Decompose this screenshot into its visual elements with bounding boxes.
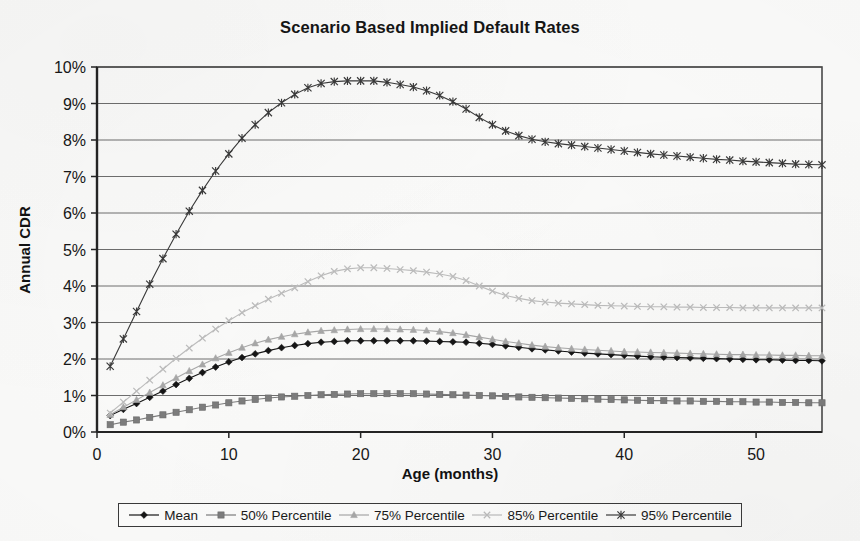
data-point-square xyxy=(133,417,139,423)
data-point-square xyxy=(766,399,772,405)
data-series xyxy=(107,77,826,428)
y-axis-tick-label: 9% xyxy=(63,96,86,113)
x-axis-title: Age (months) xyxy=(402,465,499,482)
y-axis-tick-label: 6% xyxy=(63,205,86,222)
x-axis-tick-label: 0 xyxy=(93,446,102,463)
data-point-square xyxy=(608,396,614,402)
data-point-diamond xyxy=(252,350,259,357)
data-point-square xyxy=(727,399,733,405)
data-point-star xyxy=(304,84,311,92)
legend-item-label: Mean xyxy=(164,508,198,523)
legend-item-95-percentile[interactable]: 95% Percentile xyxy=(605,508,732,523)
y-axis-tick-label: 3% xyxy=(63,315,86,332)
data-point-star xyxy=(120,335,127,343)
data-point-square xyxy=(147,414,153,420)
data-point-square xyxy=(384,391,390,397)
data-point-cross xyxy=(212,326,218,332)
data-point-square xyxy=(806,400,812,406)
data-point-star xyxy=(515,131,522,139)
y-axis-tick-label: 0% xyxy=(63,424,86,441)
data-point-square xyxy=(160,412,166,418)
data-point-square xyxy=(318,392,324,398)
data-point-diamond xyxy=(318,339,325,346)
series-95-percentile xyxy=(107,77,826,371)
legend-item-75-percentile[interactable]: 75% Percentile xyxy=(338,508,465,523)
data-point-square xyxy=(582,396,588,402)
data-point-triangle xyxy=(173,374,180,380)
data-point-diamond xyxy=(450,338,457,345)
data-point-diamond xyxy=(463,339,470,346)
data-point-square xyxy=(476,392,482,398)
data-point-diamond xyxy=(344,337,351,344)
x-axis-tick-label: 30 xyxy=(484,446,502,463)
chart-page: Scenario Based Implied Default Rates 0%1… xyxy=(0,0,860,541)
legend-swatch-diamond-icon xyxy=(128,509,160,521)
data-point-star xyxy=(199,186,206,194)
data-point-square xyxy=(239,398,245,404)
data-point-diamond xyxy=(173,381,180,388)
data-point-cross xyxy=(318,273,324,279)
data-point-square xyxy=(305,392,311,398)
data-point-square xyxy=(595,396,601,402)
data-point-square xyxy=(648,398,654,404)
data-point-star xyxy=(462,105,469,113)
legend-swatch-triangle-icon xyxy=(338,509,370,521)
data-point-square xyxy=(199,404,205,410)
data-point-square xyxy=(713,398,719,404)
y-axis-tick-label: 2% xyxy=(63,351,86,368)
data-point-cross xyxy=(133,388,139,394)
data-point-cross xyxy=(252,303,258,309)
data-point-cross xyxy=(160,366,166,372)
data-point-triangle xyxy=(160,382,167,388)
y-axis-tick-label: 1% xyxy=(63,388,86,405)
data-point-square xyxy=(687,398,693,404)
legend-swatch-star-icon xyxy=(605,509,637,521)
data-point-square xyxy=(621,397,627,403)
x-axis-tick-labels: 01020304050 xyxy=(93,446,766,463)
data-point-star xyxy=(159,254,166,262)
y-axis-tick-label: 5% xyxy=(63,242,86,259)
data-point-square xyxy=(437,391,443,397)
data-point-square xyxy=(358,391,364,397)
legend-item-label: 85% Percentile xyxy=(507,508,598,523)
data-point-star xyxy=(423,87,430,95)
chart-canvas: 0%1%2%3%4%5%6%7%8%9%10% 01020304050 Annu… xyxy=(0,0,860,541)
chart-legend: Mean50% Percentile75% Percentile85% Perc… xyxy=(118,503,742,527)
data-point-square xyxy=(423,391,429,397)
legend-item-mean[interactable]: Mean xyxy=(128,508,198,523)
legend-item-85-percentile[interactable]: 85% Percentile xyxy=(471,508,598,523)
data-point-cross xyxy=(305,278,311,284)
data-point-square xyxy=(450,392,456,398)
legend-item-label: 75% Percentile xyxy=(374,508,465,523)
data-point-square xyxy=(292,393,298,399)
data-point-square xyxy=(819,400,825,406)
data-point-diamond xyxy=(239,354,246,361)
data-point-diamond xyxy=(225,359,232,366)
data-point-cross xyxy=(489,288,495,294)
y-axis-tick-label: 10% xyxy=(54,59,86,76)
data-point-diamond xyxy=(397,337,404,344)
data-point-star xyxy=(212,167,219,175)
data-point-diamond xyxy=(278,344,285,351)
y-axis-tick-label: 7% xyxy=(63,169,86,186)
data-point-cross xyxy=(239,309,245,315)
data-point-triangle xyxy=(146,389,153,395)
y-axis-tick-label: 8% xyxy=(63,132,86,149)
data-point-diamond xyxy=(199,369,206,376)
data-point-square xyxy=(542,395,548,401)
data-point-diamond xyxy=(305,340,312,347)
gridlines xyxy=(97,67,822,396)
data-point-square xyxy=(252,396,258,402)
x-axis-tick-label: 10 xyxy=(220,446,238,463)
x-axis-tick-label: 20 xyxy=(352,446,370,463)
data-point-star xyxy=(252,121,259,129)
data-point-diamond xyxy=(291,342,298,349)
data-point-square xyxy=(555,395,561,401)
legend-item-50-percentile[interactable]: 50% Percentile xyxy=(205,508,332,523)
axis-ticks xyxy=(91,67,756,438)
data-point-square xyxy=(779,399,785,405)
data-point-triangle xyxy=(186,367,193,373)
data-point-diamond xyxy=(186,375,193,382)
data-point-square xyxy=(186,407,192,413)
data-point-diamond xyxy=(265,347,272,354)
